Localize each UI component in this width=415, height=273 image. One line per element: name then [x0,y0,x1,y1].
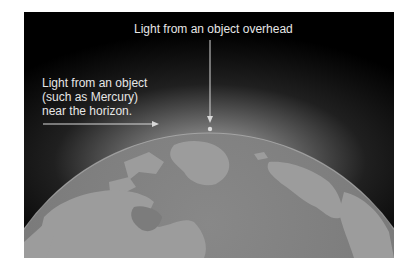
horizon-label-line: (such as Mercury) [42,90,147,104]
dot-icon [208,127,212,131]
overhead-label: Light from an object overhead [134,22,293,36]
earth-globe [24,12,394,258]
horizon-label-line: Light from an object [42,76,147,90]
diagram-panel: Light from an object overhead Light from… [24,12,394,258]
horizon-label-line: near the horizon. [42,104,147,118]
horizon-label: Light from an object (such as Mercury) n… [42,76,147,118]
